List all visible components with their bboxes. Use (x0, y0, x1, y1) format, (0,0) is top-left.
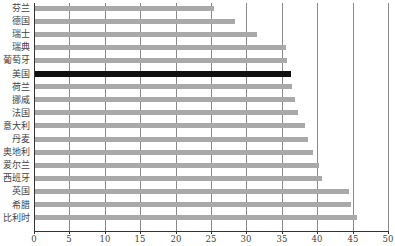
category-label: 西班牙 (3, 173, 30, 183)
x-tick-label: 35 (272, 234, 292, 244)
category-label: 爱尔兰 (3, 160, 30, 170)
gridline (282, 3, 283, 231)
bar (35, 58, 287, 63)
category-label: 芬兰 (12, 3, 30, 13)
gridline (176, 3, 177, 231)
bar (35, 163, 319, 168)
bar (35, 189, 349, 194)
x-tick-label: 20 (166, 234, 186, 244)
bar (35, 32, 257, 37)
category-label: 希腊 (12, 200, 30, 210)
x-tick-label: 25 (201, 234, 221, 244)
x-tick-label: 40 (307, 234, 327, 244)
bar (35, 215, 357, 220)
y-axis-line (34, 3, 35, 232)
gridline (246, 3, 247, 231)
x-tick-label: 50 (378, 234, 395, 244)
category-label: 挪威 (12, 95, 30, 105)
gridline (353, 3, 354, 231)
bar (35, 97, 295, 102)
gridline (388, 3, 389, 231)
gridline (105, 3, 106, 231)
bar (35, 45, 286, 50)
bar (35, 6, 214, 11)
category-label: 奥地利 (3, 147, 30, 157)
bar (35, 150, 313, 155)
gridline (140, 3, 141, 231)
gridline (69, 3, 70, 231)
category-label: 葡萄牙 (3, 55, 30, 65)
category-label: 瑞典 (12, 42, 30, 52)
bar (35, 71, 291, 77)
category-label: 比利时 (3, 213, 30, 223)
gridline (211, 3, 212, 231)
x-tick-label: 0 (24, 234, 44, 244)
bar (35, 19, 235, 24)
bar (35, 84, 292, 89)
category-label: 瑞士 (12, 29, 30, 39)
x-tick-label: 10 (95, 234, 115, 244)
bar (35, 137, 308, 142)
category-label: 英国 (12, 186, 30, 196)
bar (35, 176, 322, 181)
category-label: 丹麦 (12, 134, 30, 144)
category-label: 美国 (12, 69, 30, 79)
category-label: 意大利 (3, 121, 30, 131)
bar (35, 123, 305, 128)
horizontal-bar-chart: 05101520253035404550 芬兰德国瑞士瑞典葡萄牙美国荷兰挪威法国… (0, 0, 395, 246)
category-label: 法国 (12, 108, 30, 118)
x-tick-label: 15 (130, 234, 150, 244)
x-tick-label: 5 (59, 234, 79, 244)
gridline (317, 3, 318, 231)
bar (35, 110, 298, 115)
category-label: 荷兰 (12, 82, 30, 92)
category-label: 德国 (12, 16, 30, 26)
x-tick-label: 30 (236, 234, 256, 244)
bar (35, 202, 351, 207)
x-tick-label: 45 (343, 234, 363, 244)
